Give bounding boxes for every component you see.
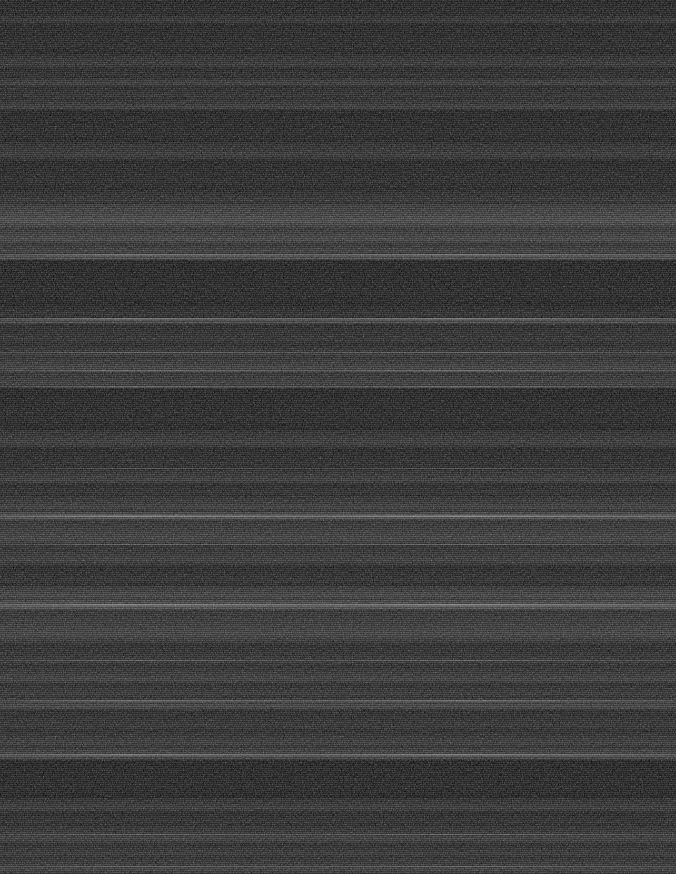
noise-image-canvas <box>0 0 676 874</box>
grain-noise-overlay <box>0 0 676 874</box>
